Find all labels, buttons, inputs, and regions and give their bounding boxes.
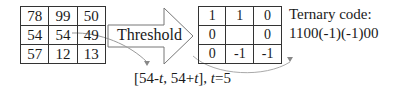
- range-prefix: [54-: [134, 70, 159, 86]
- grid-cell: -1: [254, 45, 282, 64]
- grid-cell: 1: [199, 7, 226, 26]
- grid-cell: 12: [49, 45, 77, 64]
- grid-cell: 0: [254, 7, 282, 26]
- grid-cell: -1: [226, 45, 254, 64]
- grid-cell: 78: [21, 7, 49, 26]
- ternary-output-grid: 1 1 0 0 0 0 -1 -1: [198, 6, 282, 64]
- grid-cell: 1: [226, 7, 254, 26]
- grid-cell: 0: [199, 26, 226, 45]
- grid-cell-center: [226, 26, 254, 45]
- input-patch-grid: 78 99 50 54 54 49 57 12 13: [20, 6, 106, 64]
- grid-row: 0 -1 -1: [199, 45, 282, 64]
- range-eq: =5: [215, 70, 231, 86]
- range-arrowhead-icon: [144, 61, 150, 66]
- grid-cell: 0: [254, 26, 282, 45]
- grid-cell: 54: [21, 26, 49, 45]
- grid-cell: 13: [77, 45, 105, 64]
- reading-order-arrowhead-icon: [287, 57, 293, 62]
- grid-cell: 99: [49, 7, 77, 26]
- grid-cell: 0: [199, 45, 226, 64]
- grid-row: 0 0: [199, 26, 282, 45]
- ternary-code-value: 1100(-1)(-1)00: [289, 25, 378, 42]
- grid-row: 57 12 13: [21, 45, 106, 64]
- grid-cell: 57: [21, 45, 49, 64]
- range-mid: , 54+: [163, 70, 194, 86]
- grid-cell: 49: [77, 26, 105, 45]
- grid-row: 78 99 50: [21, 7, 106, 26]
- grid-row: 54 54 49: [21, 26, 106, 45]
- threshold-label: Threshold: [117, 26, 182, 44]
- grid-row: 1 1 0: [199, 7, 282, 26]
- grid-cell: 50: [77, 7, 105, 26]
- ternary-code-title: Ternary code:: [289, 6, 372, 23]
- range-suffix: ],: [198, 70, 211, 86]
- grid-cell-center: 54: [49, 26, 77, 45]
- threshold-range-label: [54-t, 54+t], t=5: [134, 70, 231, 87]
